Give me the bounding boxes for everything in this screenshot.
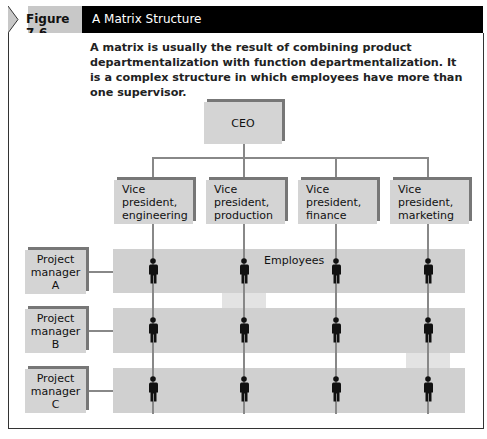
person-icon <box>331 317 341 343</box>
person-icon <box>148 317 158 343</box>
vp-production-box: Vice president, production <box>206 180 285 224</box>
person-icon <box>331 258 341 284</box>
ceo-label: CEO <box>204 117 282 130</box>
figure-title-bar: A Matrix Structure <box>82 6 483 33</box>
vp-marketing-box: Vice president, marketing <box>390 180 469 224</box>
pm-a-connector <box>89 271 113 273</box>
person-icon <box>331 376 341 402</box>
vp-connector-1 <box>152 157 154 180</box>
ceo-connector <box>243 144 245 158</box>
project-band-c <box>113 368 465 413</box>
ceo-box: CEO <box>204 102 282 144</box>
person-icon <box>148 258 158 284</box>
person-icon <box>239 258 249 284</box>
pm-b-box: Project manager B <box>25 309 86 353</box>
person-icon <box>423 258 433 284</box>
vp-finance-label: Vice president, finance <box>306 183 361 222</box>
employees-label: Employees <box>264 254 324 267</box>
pm-b-connector <box>89 330 113 332</box>
pm-c-label: Project manager C <box>25 369 86 411</box>
pm-a-box: Project manager A <box>25 250 86 294</box>
pm-c-box: Project manager C <box>25 369 86 413</box>
figure-caption: A matrix is usually the result of combin… <box>90 40 470 100</box>
pm-c-connector <box>89 390 113 392</box>
pm-b-label: Project manager B <box>25 309 86 351</box>
person-icon <box>423 317 433 343</box>
vp-horizontal-connector <box>152 157 429 159</box>
figure-title: A Matrix Structure <box>92 12 201 26</box>
person-icon <box>239 317 249 343</box>
person-icon <box>239 376 249 402</box>
vp-engineering-box: Vice president, engineering <box>114 180 193 224</box>
person-icon <box>148 376 158 402</box>
vp-production-label: Vice president, production <box>214 183 273 222</box>
figure-label: Figure 7.6 <box>8 6 82 33</box>
arrow-tab-icon <box>8 6 28 33</box>
vp-connector-2 <box>243 157 245 180</box>
vp-connector-3 <box>335 157 337 180</box>
person-icon <box>423 376 433 402</box>
vp-finance-box: Vice president, finance <box>298 180 377 224</box>
vp-connector-4 <box>427 157 429 180</box>
vp-engineering-label: Vice president, engineering <box>122 183 188 222</box>
project-band-b <box>113 308 465 353</box>
pm-a-label: Project manager A <box>25 250 86 292</box>
vp-marketing-label: Vice president, marketing <box>398 183 454 222</box>
